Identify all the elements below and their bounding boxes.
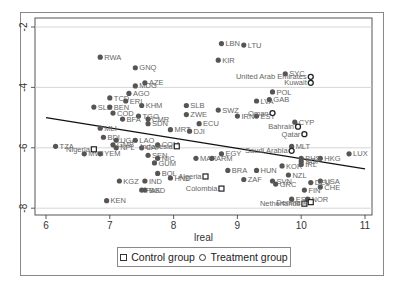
point-label: ECU: [203, 119, 219, 128]
point-label: KIR: [222, 56, 235, 65]
data-point: [241, 177, 246, 182]
data-point: [142, 80, 147, 85]
data-point: [117, 178, 122, 183]
data-point: [53, 144, 58, 149]
point-label: HKG: [324, 154, 340, 163]
y-tick-label: -4: [18, 83, 29, 92]
point-label: LBN: [225, 39, 240, 48]
data-point: [267, 97, 272, 102]
data-point: [155, 171, 160, 176]
data-point: [145, 121, 150, 126]
point-label: KHM: [146, 101, 163, 110]
point-label: BFA: [127, 115, 141, 124]
control-point: [91, 147, 96, 152]
treatment-point: [308, 80, 313, 85]
data-point: [184, 112, 189, 117]
data-point: [101, 135, 106, 140]
point-label: ZAF: [248, 175, 263, 184]
data-point: [270, 89, 275, 94]
y-tick-label: -8: [18, 203, 29, 212]
point-label: Denmark: [276, 198, 307, 207]
data-point: [209, 156, 214, 161]
point-label: Indonesia: [140, 142, 173, 151]
data-point: [107, 95, 112, 100]
point-label: Nigeria: [66, 145, 91, 154]
data-point: [168, 175, 173, 180]
point-label: Qatar: [282, 130, 301, 139]
point-label: SLB: [190, 101, 204, 110]
scatter-plot: -2-4-6-867891011lrealRWALBNLTUKIRGNQMDGA…: [0, 0, 394, 287]
point-label: IND: [149, 177, 163, 186]
point-label: Algeria: [178, 172, 202, 181]
data-point: [126, 91, 131, 96]
data-point: [168, 127, 173, 132]
point-label: LVA: [261, 97, 274, 106]
data-point: [279, 163, 284, 168]
data-point: [235, 113, 240, 118]
point-label: KGZ: [123, 177, 139, 186]
data-point: [133, 65, 138, 70]
data-point: [145, 117, 150, 122]
data-point: [114, 145, 119, 150]
point-label: NZL: [292, 171, 306, 180]
data-point: [197, 121, 202, 126]
x-tick-label: 6: [43, 220, 49, 231]
control-point: [219, 186, 224, 191]
x-tick-label: 7: [107, 220, 113, 231]
point-label: MLI: [104, 124, 117, 133]
data-point: [98, 126, 103, 131]
data-point: [302, 187, 307, 192]
point-label: RWA: [104, 53, 121, 62]
point-label: GUM: [158, 159, 176, 168]
point-label: PAK: [146, 186, 160, 195]
data-point: [107, 104, 112, 109]
data-point: [98, 55, 103, 60]
point-label: Oman: [248, 109, 268, 118]
point-label: DEU: [315, 178, 331, 187]
treatment-point: [302, 132, 307, 137]
data-point: [241, 43, 246, 48]
x-tick-label: 8: [171, 220, 177, 231]
data-point: [346, 151, 351, 156]
point-label: LTU: [248, 41, 262, 50]
point-label: SGP: [305, 157, 321, 166]
point-label: NOR: [312, 195, 329, 204]
data-point: [139, 103, 144, 108]
legend-treatment: Treatment group: [199, 251, 287, 263]
treatment-point: [289, 148, 294, 153]
circle-marker-icon: [199, 254, 206, 261]
control-point: [203, 174, 208, 179]
data-point: [193, 156, 198, 161]
treatment-point: [296, 124, 301, 129]
point-label: HUN: [261, 166, 277, 175]
data-point: [91, 104, 96, 109]
data-point: [152, 160, 157, 165]
data-point: [273, 181, 278, 186]
point-label: GRC: [280, 180, 297, 189]
point-label: MLT: [296, 142, 311, 151]
data-point: [104, 198, 109, 203]
data-point: [286, 172, 291, 177]
point-label: MAR: [200, 154, 217, 163]
y-tick-label: -6: [18, 143, 29, 152]
control-point: [308, 200, 313, 205]
data-point: [139, 187, 144, 192]
point-label: BRA: [232, 166, 247, 175]
point-label: KEN: [111, 196, 126, 205]
point-label: Kuwait: [284, 78, 307, 87]
point-label: GNQ: [139, 63, 156, 72]
data-point: [184, 103, 189, 108]
data-point: [299, 159, 304, 164]
x-axis-title: lreal: [194, 232, 213, 243]
x-tick-label: 9: [235, 220, 241, 231]
x-tick-label: 11: [360, 220, 371, 231]
data-point: [254, 168, 259, 173]
data-point: [187, 129, 192, 134]
x-tick-label: 10: [296, 220, 308, 231]
data-point: [133, 83, 138, 88]
data-point: [254, 98, 259, 103]
square-marker-icon: [120, 254, 127, 261]
point-label: SWZ: [222, 106, 239, 115]
data-point: [308, 180, 313, 185]
data-point: [142, 178, 147, 183]
